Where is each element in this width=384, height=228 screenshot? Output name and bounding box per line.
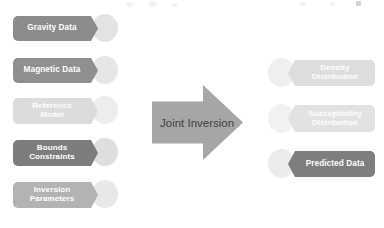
node-label-line: Distribution <box>312 119 358 128</box>
scan-artifact <box>300 2 306 6</box>
process-arrow-label: Joint Inversion <box>152 117 234 129</box>
node-bar[interactable]: Predicted Data <box>288 151 375 177</box>
node-bar[interactable]: Density Distribution <box>288 60 375 86</box>
node-label-line: Parameters <box>30 195 75 204</box>
node-label-line: Model <box>40 111 64 120</box>
scan-artifact <box>172 3 178 7</box>
scan-artifact <box>356 1 361 6</box>
scan-artifact <box>148 1 157 7</box>
process-arrow-joint-inversion[interactable]: Joint Inversion <box>152 85 243 160</box>
scan-artifact <box>126 2 133 7</box>
node-bar[interactable]: Gravity Data <box>13 16 98 41</box>
node-label-line: Constraints <box>29 153 75 162</box>
node-bar[interactable]: Bounds Constraints <box>13 140 98 166</box>
node-label-line: Distribution <box>312 73 358 82</box>
node-label-line: Magnetic Data <box>24 66 81 75</box>
node-bar[interactable]: Susceptibility Distribution <box>288 105 375 132</box>
diagram-canvas: Gravity Data Magnetic Data Reference Mod… <box>0 0 384 228</box>
node-bar[interactable]: Inversion Parameters <box>13 182 98 208</box>
node-bar[interactable]: Reference Model <box>13 98 98 124</box>
scan-artifact <box>330 2 335 6</box>
node-label-line: Gravity Data <box>27 24 76 33</box>
node-bar[interactable]: Magnetic Data <box>13 58 98 83</box>
node-label-line: Predicted Data <box>306 160 365 169</box>
